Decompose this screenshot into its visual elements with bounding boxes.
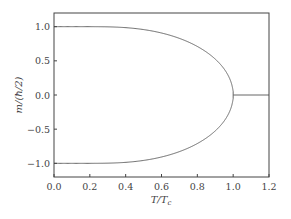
magnetization-chart: 0.00.20.40.60.81.01.2 1.00.50.0−0.5−1.0 … xyxy=(0,0,291,219)
x-axis-label: T/Tc xyxy=(151,194,172,207)
x-tick-label: 0.6 xyxy=(154,181,169,192)
x-tick-label: 0.4 xyxy=(118,181,133,192)
y-tick-label: 0.5 xyxy=(35,55,50,66)
y-axis-label: m/(ħ/2) xyxy=(13,76,24,113)
x-tick-label: 1.2 xyxy=(261,181,276,192)
data-curves xyxy=(54,27,269,164)
y-tick-label: 1.0 xyxy=(35,21,50,32)
upper-branch-line xyxy=(54,27,233,95)
x-tick-label: 0.8 xyxy=(190,181,205,192)
x-tick-label: 0.0 xyxy=(46,181,61,192)
x-tick-label: 0.2 xyxy=(82,181,97,192)
y-tick-label: −1.0 xyxy=(27,158,50,169)
y-tick-label: −0.5 xyxy=(27,124,50,135)
y-axis-ticks: 1.00.50.0−0.5−1.0 xyxy=(27,21,57,169)
x-tick-label: 1.0 xyxy=(226,181,241,192)
lower-branch-line xyxy=(54,95,233,163)
y-tick-label: 0.0 xyxy=(35,90,50,101)
